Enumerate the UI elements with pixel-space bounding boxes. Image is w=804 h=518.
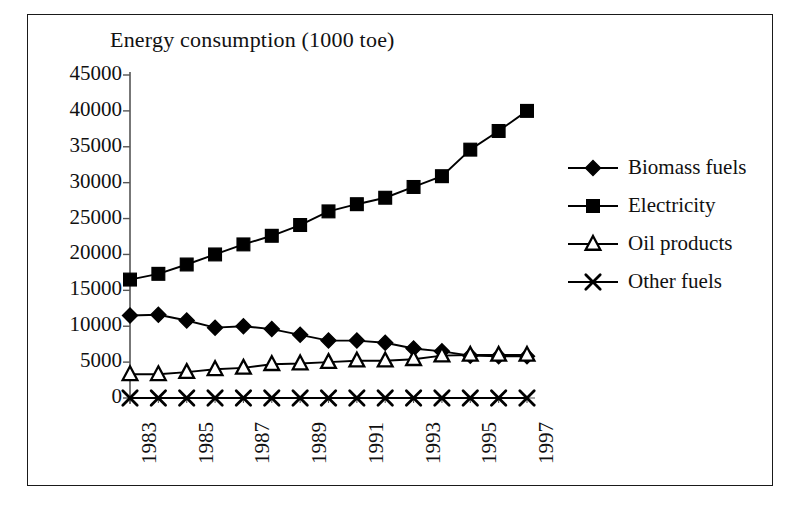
data-point-biomass-fuels-1985 <box>179 313 194 328</box>
legend-label: Oil products <box>620 232 732 255</box>
y-tick-label-10000: 10000 <box>70 314 123 335</box>
x-tick-label-1997: 1997 <box>536 422 557 464</box>
data-point-electricity-1993 <box>407 181 420 194</box>
y-tick-label-25000: 25000 <box>70 207 123 228</box>
data-point-biomass-fuels-1987 <box>236 319 251 334</box>
legend-marker-filled-square-icon <box>566 195 620 215</box>
data-point-biomass-fuels-1984 <box>151 307 166 322</box>
y-tick-label-45000: 45000 <box>70 63 123 84</box>
data-point-biomass-fuels-1992 <box>378 335 393 350</box>
y-tick-label-15000: 15000 <box>70 278 123 299</box>
data-point-electricity-1987 <box>237 238 250 251</box>
data-point-electricity-1997 <box>521 104 534 117</box>
data-point-biomass-fuels-1983 <box>123 308 138 323</box>
legend-marker-filled-diamond-icon <box>566 157 620 177</box>
legend-item-biomass-fuels[interactable]: Biomass fuels <box>566 148 766 186</box>
legend-label: Biomass fuels <box>620 156 746 179</box>
x-tick-label-1983: 1983 <box>139 422 160 464</box>
data-point-electricity-1985 <box>180 258 193 271</box>
y-tick-label-0: 0 <box>112 386 123 407</box>
y-tick-label-35000: 35000 <box>70 135 123 156</box>
data-point-electricity-1989 <box>294 219 307 232</box>
x-tick-label-1989: 1989 <box>309 422 330 464</box>
data-point-electricity-1990 <box>322 205 335 218</box>
data-point-oil-products-1983 <box>123 366 138 380</box>
legend-marker-open-triangle-icon <box>566 233 620 253</box>
data-point-biomass-fuels-1988 <box>264 322 279 337</box>
legend-item-oil-products[interactable]: Oil products <box>566 224 766 262</box>
data-point-oil-products-1988 <box>264 356 279 370</box>
y-tick-label-30000: 30000 <box>70 171 123 192</box>
data-point-electricity-1983 <box>124 273 137 286</box>
y-tick-label-5000: 5000 <box>80 350 122 371</box>
x-tick-label-1987: 1987 <box>252 422 273 464</box>
data-point-biomass-fuels-1991 <box>349 333 364 348</box>
data-point-biomass-fuels-1990 <box>321 333 336 348</box>
series-line-electricity <box>130 111 527 280</box>
data-point-electricity-1996 <box>492 125 505 138</box>
data-point-electricity-1991 <box>350 198 363 211</box>
y-tick-label-40000: 40000 <box>70 99 123 120</box>
figure-page: Energy consumption (1000 toe) 0500010000… <box>0 0 804 518</box>
legend-item-other-fuels[interactable]: Other fuels <box>566 262 766 300</box>
y-tick-label-20000: 20000 <box>70 242 123 263</box>
data-point-electricity-1984 <box>152 267 165 280</box>
legend-label: Other fuels <box>620 270 722 293</box>
x-tick-label-1985: 1985 <box>196 422 217 464</box>
data-point-electricity-1994 <box>436 170 449 183</box>
data-point-biomass-fuels-1989 <box>293 327 308 342</box>
data-point-electricity-1995 <box>464 143 477 156</box>
data-point-electricity-1986 <box>209 248 222 261</box>
x-tick-label-1991: 1991 <box>366 422 387 464</box>
data-point-biomass-fuels-1986 <box>208 320 223 335</box>
data-point-electricity-1992 <box>379 191 392 204</box>
chart-legend: Biomass fuelsElectricityOil productsOthe… <box>566 148 766 300</box>
x-tick-label-1995: 1995 <box>479 422 500 464</box>
legend-item-electricity[interactable]: Electricity <box>566 186 766 224</box>
legend-marker-cross-icon <box>566 271 620 291</box>
x-tick-label-1993: 1993 <box>423 422 444 464</box>
data-point-electricity-1988 <box>265 229 278 242</box>
data-point-oil-products-1991 <box>349 353 364 367</box>
legend-label: Electricity <box>620 194 715 217</box>
